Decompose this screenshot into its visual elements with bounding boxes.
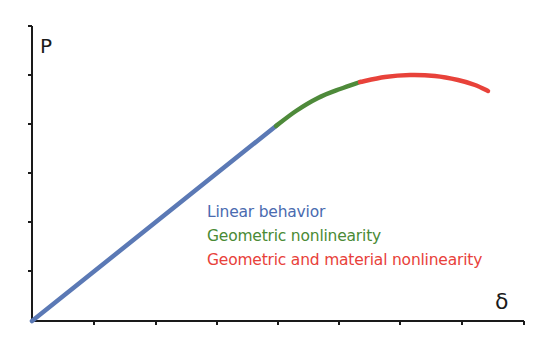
y-axis-label: P xyxy=(40,36,52,56)
legend-linear-behavior: Linear behavior xyxy=(207,200,482,224)
legend-geometric-nonlinearity: Geometric nonlinearity xyxy=(207,224,482,248)
axes xyxy=(28,26,524,325)
curve-series xyxy=(32,75,488,321)
legend: Linear behavior Geometric nonlinearity G… xyxy=(207,200,482,272)
series-geometric-nonlinearity xyxy=(276,82,360,126)
load-deflection-chart xyxy=(0,0,552,351)
series-geometric-and-material-nonlinearity xyxy=(360,75,488,91)
x-axis-label: δ xyxy=(495,291,508,313)
legend-geometric-material-nonlinearity: Geometric and material nonlinearity xyxy=(207,248,482,272)
